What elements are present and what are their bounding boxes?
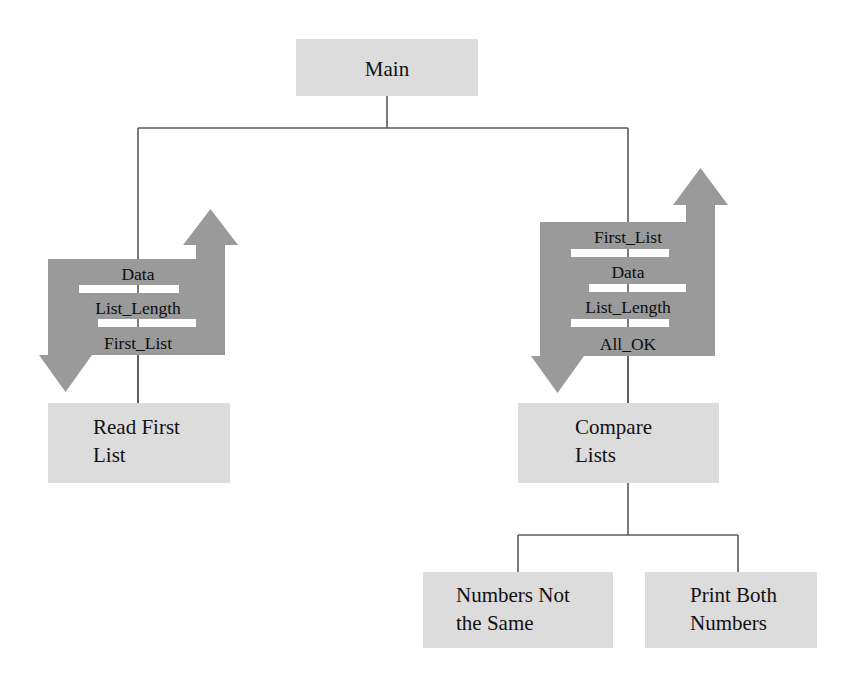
- couple-label-right-1: Data: [611, 262, 644, 282]
- module-read-first-list-label-1: List: [93, 443, 126, 467]
- module-read-first-list-label-0: Read First: [93, 415, 180, 439]
- couple-label-left-2: First_List: [104, 333, 172, 353]
- structure-chart-diagram: Data List_Length First_List First_List D…: [0, 0, 866, 686]
- couple-bar-data-left-elbow: [179, 259, 205, 293]
- module-numbers-not-the-same-label-1: the Same: [456, 611, 534, 635]
- couple-label-right-2: List_Length: [585, 297, 671, 317]
- module-compare-lists-label-0: Compare: [575, 415, 652, 439]
- module-compare-lists-label-1: Lists: [575, 443, 616, 467]
- couple-bar-list-length-left-elbow: [72, 293, 98, 327]
- module-main[interactable]: Main: [296, 39, 478, 96]
- couple-label-left-0: Data: [121, 264, 154, 284]
- module-compare-lists[interactable]: Compare Lists: [518, 403, 719, 483]
- diagram-canvas: Data List_Length First_List First_List D…: [0, 0, 866, 686]
- module-print-both-numbers-label-1: Numbers: [690, 611, 767, 635]
- module-numbers-not-the-same-label-0: Numbers Not: [456, 583, 570, 607]
- couple-bar-first-list-right-elbow: [669, 222, 695, 257]
- couple-bar-list-length-right-elbow: [669, 292, 695, 327]
- couple-bar-data-right-elbow: [563, 257, 589, 292]
- data-couple-cluster-right: First_List Data List_Length All_OK: [531, 168, 728, 393]
- module-read-first-list[interactable]: Read First List: [48, 403, 230, 483]
- couple-label-right-0: First_List: [594, 227, 662, 247]
- couple-label-right-3: All_OK: [600, 334, 657, 354]
- module-print-both-numbers[interactable]: Print Both Numbers: [645, 572, 817, 648]
- module-numbers-not-the-same[interactable]: Numbers Not the Same: [423, 572, 613, 648]
- module-print-both-numbers-label-0: Print Both: [690, 583, 777, 607]
- module-main-label-0: Main: [365, 57, 410, 81]
- couple-label-left-1: List_Length: [95, 298, 181, 318]
